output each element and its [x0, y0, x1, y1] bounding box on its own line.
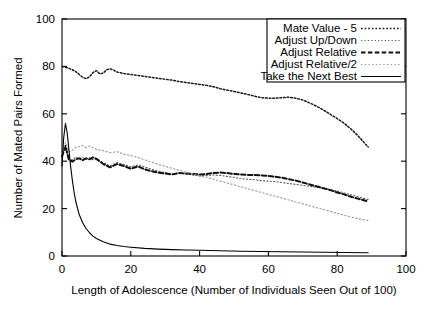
x-axis-title: Length of Adolescence (Number of Individ… — [71, 284, 397, 296]
series-line-3 — [62, 146, 368, 202]
chart-legend: Mate Value - 5Adjust Up/DownAdjust Relat… — [260, 19, 405, 82]
chart-canvas: 020406080100 020406080100 Length of Adol… — [0, 0, 434, 309]
x-axis-ticks: 020406080100 — [59, 251, 416, 275]
y-tick-label: 0 — [49, 250, 55, 262]
x-tick-label: 80 — [331, 263, 344, 275]
x-tick-label: 40 — [193, 263, 206, 275]
y-tick-label: 40 — [42, 155, 55, 167]
y-tick-label: 60 — [42, 108, 55, 120]
y-tick-label: 80 — [42, 60, 55, 72]
y-axis-title: Number of Mated Pairs Formed — [12, 57, 24, 218]
legend-label-2: Adjust Up/Down — [275, 34, 357, 46]
x-tick-label: 100 — [396, 263, 415, 275]
y-tick-label: 100 — [36, 13, 55, 25]
legend-label-1: Mate Value - 5 — [283, 22, 357, 34]
x-tick-label: 20 — [124, 263, 137, 275]
legend-label-5: Take the Next Best — [260, 70, 357, 82]
chart-figure: 020406080100 020406080100 Length of Adol… — [0, 0, 434, 309]
legend-label-4: Adjust Relative/2 — [271, 58, 357, 70]
series-line-2 — [62, 149, 368, 199]
legend-label-3: Adjust Relative — [280, 46, 357, 58]
y-tick-label: 20 — [42, 203, 55, 215]
x-tick-label: 0 — [59, 263, 65, 275]
x-tick-label: 60 — [262, 263, 275, 275]
series-group — [62, 66, 368, 252]
series-line-4 — [62, 142, 368, 220]
